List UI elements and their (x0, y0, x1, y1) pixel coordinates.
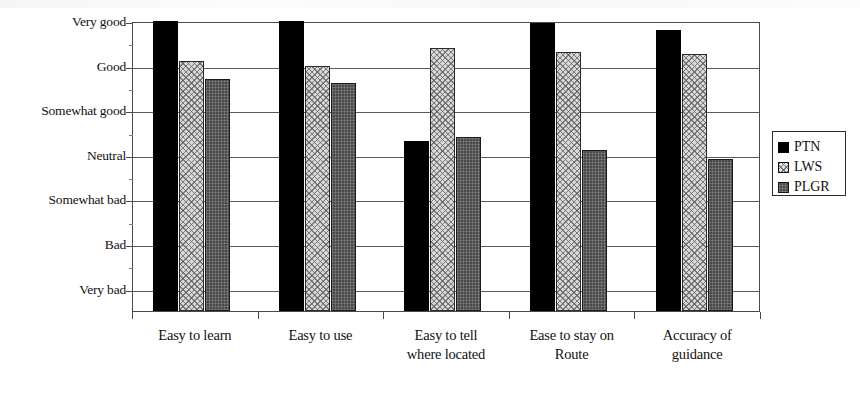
legend-item-ptn: PTN (778, 137, 841, 157)
x-axis-tick (509, 312, 510, 319)
scan-artifact (0, 0, 860, 8)
legend-label: PTN (794, 140, 820, 154)
x-axis-category-label: Easy to learn (132, 326, 258, 345)
x-axis-category-label: Easy to use (258, 326, 384, 345)
y-axis-tick (126, 201, 133, 202)
y-axis-label: Very good (8, 15, 126, 29)
bar-plgr (456, 137, 481, 311)
bar-lws (179, 61, 204, 311)
bar-plgr (331, 83, 356, 311)
x-axis-category-label: Ease to stay onRoute (509, 326, 635, 364)
x-axis-category-label: Accuracy ofguidance (634, 326, 760, 364)
x-axis-tick (760, 312, 761, 319)
bar-chart: Very goodGoodSomewhat goodNeutralSomewha… (0, 0, 860, 399)
x-axis-labels: Easy to learnEasy to useEasy to tellwher… (132, 326, 760, 386)
y-axis-tick (126, 112, 133, 113)
bar-lws (556, 52, 581, 311)
bar-group (259, 23, 385, 311)
y-axis-labels: Very goodGoodSomewhat goodNeutralSomewha… (0, 22, 126, 312)
bar-lws (682, 54, 707, 311)
bar-ptn (153, 21, 178, 311)
x-axis-ticks (132, 312, 760, 320)
legend-swatch-lws-icon (778, 162, 789, 173)
x-axis-category-line: Accuracy of (634, 326, 760, 345)
y-axis-tick (126, 246, 133, 247)
x-axis-category-line: Easy to tell (383, 326, 509, 345)
bar-ptn (530, 23, 555, 311)
y-axis-tick (126, 157, 133, 158)
legend-item-lws: LWS (778, 157, 841, 177)
bar-ptn (279, 21, 304, 311)
x-axis-tick (383, 312, 384, 319)
bar-ptn (656, 30, 681, 311)
y-axis-label: Somewhat good (8, 104, 126, 118)
y-axis-label: Neutral (8, 149, 126, 163)
bar-lws (430, 48, 455, 311)
legend-swatch-ptn-icon (778, 142, 789, 153)
bar-plgr (582, 150, 607, 311)
y-axis-label: Very bad (8, 283, 126, 297)
x-axis-tick (258, 312, 259, 319)
x-axis-category-line: Route (509, 345, 635, 364)
bar-lws (305, 66, 330, 311)
y-axis-label: Somewhat bad (8, 193, 126, 207)
bar-group (384, 23, 510, 311)
legend-item-plgr: PLGR (778, 177, 841, 197)
legend-swatch-plgr-icon (778, 182, 789, 193)
y-axis-label: Good (8, 60, 126, 74)
bar-plgr (205, 79, 230, 311)
legend-label: PLGR (794, 180, 829, 194)
y-axis-tick (126, 68, 133, 69)
y-axis-tick (126, 291, 133, 292)
x-axis-category-line: Ease to stay on (509, 326, 635, 345)
y-axis-tick (126, 23, 133, 24)
x-axis-tick (634, 312, 635, 319)
x-axis-tick (132, 312, 133, 319)
x-axis-category-label: Easy to tellwhere located (383, 326, 509, 364)
x-axis-category-line: Easy to use (258, 326, 384, 345)
x-axis-category-line: where located (383, 345, 509, 364)
y-axis-label: Bad (8, 238, 126, 252)
plot-area (132, 22, 760, 312)
x-axis-category-line: guidance (634, 345, 760, 364)
bar-group (133, 23, 259, 311)
chart-legend: PTNLWSPLGR (772, 131, 846, 196)
bar-plgr (708, 159, 733, 311)
bar-ptn (404, 141, 429, 311)
bar-group (510, 23, 636, 311)
bar-group (635, 23, 761, 311)
legend-label: LWS (794, 160, 822, 174)
x-axis-category-line: Easy to learn (132, 326, 258, 345)
